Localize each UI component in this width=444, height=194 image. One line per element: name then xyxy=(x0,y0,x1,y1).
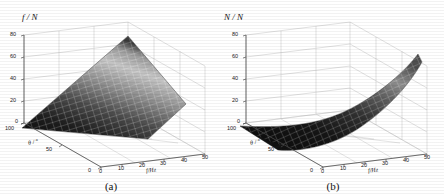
z-ticks-a xyxy=(21,35,24,124)
y-tick-a-0: 0 xyxy=(88,167,91,173)
x-tick-a-20: 20 xyxy=(139,162,145,168)
surface-plot-b xyxy=(222,0,444,194)
y-tick-b-50: 50 xyxy=(268,146,274,152)
z-tick-a-40: 40 xyxy=(10,75,16,81)
x-tick-b-10: 10 xyxy=(340,165,346,171)
z-tick-b-40: 40 xyxy=(232,75,238,81)
subplot-b: N / N 80 60 40 20 0 100 50 0 θ / ° 0 10 … xyxy=(222,0,444,194)
y-tick-b-100: 100 xyxy=(227,125,236,131)
z-tick-b-20: 20 xyxy=(232,97,238,103)
z-tick-a-20: 20 xyxy=(10,97,16,103)
y-tick-a-50: 50 xyxy=(46,146,52,152)
z-tick-a-60: 60 xyxy=(10,53,16,59)
y-tick-a-100: 100 xyxy=(5,125,14,131)
x-tick-a-10: 10 xyxy=(118,165,124,171)
x-tick-a-30: 30 xyxy=(160,160,166,166)
z-tick-b-0: 0 xyxy=(237,118,240,124)
x-tick-a-40: 40 xyxy=(181,157,187,163)
z-axis-label-a: f / N xyxy=(22,12,38,22)
x-axis-label-a: f/Hz xyxy=(146,166,157,173)
x-tick-b-0: 0 xyxy=(321,168,324,174)
z-tick-b-60: 60 xyxy=(232,53,238,59)
z-tick-a-0: 0 xyxy=(15,118,18,124)
x-tick-a-50: 50 xyxy=(202,154,208,160)
z-axis-label-b: N / N xyxy=(224,12,243,22)
surface-mesh-a xyxy=(22,36,186,139)
z-tick-b-80: 80 xyxy=(232,31,238,37)
z-tick-a-80: 80 xyxy=(10,31,16,37)
x-tick-a-0: 0 xyxy=(99,168,102,174)
z-ticks-b xyxy=(243,35,246,124)
caption-a: (a) xyxy=(0,180,222,192)
caption-b: (b) xyxy=(222,180,444,192)
y-tick-b-0: 0 xyxy=(310,167,313,173)
figure-root: f / N 80 60 40 20 0 100 50 0 θ / ° 0 10 … xyxy=(0,0,444,194)
x-tick-b-50: 50 xyxy=(424,154,430,160)
subplot-a: f / N 80 60 40 20 0 100 50 0 θ / ° 0 10 … xyxy=(0,0,222,194)
x-tick-b-20: 20 xyxy=(361,162,367,168)
x-tick-b-40: 40 xyxy=(403,157,409,163)
x-axis-label-b: f/Hz xyxy=(368,166,379,173)
surface-plot-a xyxy=(0,0,222,194)
x-tick-b-30: 30 xyxy=(382,160,388,166)
